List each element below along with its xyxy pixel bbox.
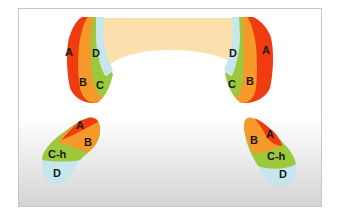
label-lower-left-d: D bbox=[53, 167, 61, 179]
label-upper-left-d: D bbox=[92, 47, 100, 59]
label-lower-right-d: D bbox=[279, 168, 287, 180]
label-upper-right-d: D bbox=[229, 47, 237, 59]
label-upper-left-b: B bbox=[79, 76, 87, 88]
label-upper-left-c: C bbox=[96, 79, 104, 91]
label-lower-right-ch: C-h bbox=[267, 150, 286, 162]
label-upper-left-a: A bbox=[65, 46, 73, 58]
label-upper-right-a: A bbox=[262, 44, 270, 56]
label-lower-left-ch: C-h bbox=[48, 148, 67, 160]
label-upper-right-c: C bbox=[228, 78, 236, 90]
label-lower-left-b: B bbox=[84, 136, 92, 148]
label-lower-right-a: A bbox=[266, 128, 274, 140]
upper-arch-fill bbox=[95, 18, 248, 74]
zone-diagram: A B C D D A C B A B C-h D B A C-h D bbox=[0, 0, 338, 220]
label-lower-left-a: A bbox=[76, 119, 84, 131]
label-lower-right-b: B bbox=[250, 134, 258, 146]
label-upper-right-b: B bbox=[246, 75, 254, 87]
